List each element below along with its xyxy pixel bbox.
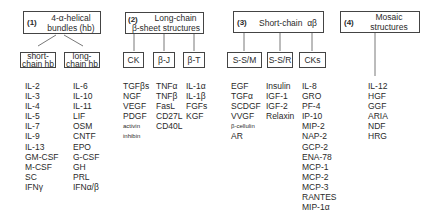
group-4-title-line2: structures <box>359 22 419 32</box>
group-1-title-line1: 4-α-helical <box>42 13 100 23</box>
member: IL-1β <box>186 91 207 101</box>
member: IL-8 <box>302 81 336 91</box>
member: IL-6 <box>73 81 99 91</box>
group-1-title: 4-α-helical bundles (hb) <box>42 13 100 33</box>
subgroup-beta-j: β-J <box>153 52 175 68</box>
subgroup-label-line2: chain hb <box>66 60 98 68</box>
group-1-box: (1) 4-α-helical bundles (hb) <box>23 11 101 34</box>
member: IL-4 <box>25 101 59 111</box>
member: β-cellulin <box>231 121 261 131</box>
member: Insulin <box>266 81 294 91</box>
group-4-title: Mosaic structures <box>359 12 419 32</box>
group-1-title-line2: bundles (hb) <box>42 23 100 33</box>
member: VVGF <box>231 111 261 121</box>
member: IGF-2 <box>266 101 294 111</box>
group-4-box: (4) Mosaic structures <box>340 11 420 33</box>
member: IFNα/β <box>73 182 99 192</box>
member: PF-4 <box>302 101 336 111</box>
member: G-CSF <box>73 152 99 162</box>
member: IL-1α <box>186 81 207 91</box>
member: NAP-2 <box>302 131 336 141</box>
member: SC <box>25 172 59 182</box>
group-2-title-line1: Long-chain <box>148 13 203 23</box>
subgroup-short-chain-hb: short- chain hb <box>20 52 56 68</box>
member: TGFα <box>231 91 261 101</box>
member: TNFβ <box>156 91 182 101</box>
subgroup-s-s-r: S-S/R <box>267 52 293 68</box>
member: FGFs <box>186 101 207 111</box>
member: VEGF <box>123 101 149 111</box>
group-1-number: (1) <box>27 18 37 28</box>
member: IL-9 <box>25 131 59 141</box>
member: CNTF <box>73 131 99 141</box>
beta-j-members: TNFα TNFβ FasL CD27L CD40L <box>156 81 182 131</box>
member: CD40L <box>156 121 182 131</box>
subgroup-long-chain-hb: long- chain hb <box>64 52 100 68</box>
group-3-number: (3) <box>237 18 247 28</box>
member: IP-10 <box>302 111 336 121</box>
member: PDGF <box>123 111 149 121</box>
member: IGF-1 <box>266 91 294 101</box>
member: RANTES <box>302 192 336 202</box>
member: EGF <box>231 81 261 91</box>
member: MCP-1 <box>302 162 336 172</box>
subgroup-ck: CK <box>123 52 144 68</box>
member: activin <box>123 121 149 131</box>
member: IL-7 <box>25 121 59 131</box>
s-s-r-members: Insulin IGF-1 IGF-2 Relaxin <box>266 81 294 121</box>
member: Relaxin <box>266 111 294 121</box>
member: IL-2 <box>25 81 59 91</box>
member: M-CSF <box>25 162 59 172</box>
member: TNFα <box>156 81 182 91</box>
member: HRG <box>368 131 388 141</box>
group-2-title-line2: β-sheet structures <box>128 23 204 33</box>
mosaic-members: IL-12 HGF GGF ARIA NDF HRG <box>368 81 388 142</box>
member: GRO <box>302 91 336 101</box>
member: NDF <box>368 121 388 131</box>
group-4-number: (4) <box>344 18 354 28</box>
member: IL-5 <box>25 111 59 121</box>
member: HGF <box>368 91 388 101</box>
member: ENA-78 <box>302 152 336 162</box>
member: LIF <box>73 111 99 121</box>
s-s-m-members: EGF TGFα SCDGF VVGF β-cellulin AR <box>231 81 261 142</box>
member: GH <box>73 162 99 172</box>
member: inhibin <box>123 131 149 141</box>
member: PRL <box>73 172 99 182</box>
member: GM-CSF <box>25 152 59 162</box>
subgroup-beta-t: β-T <box>183 52 205 68</box>
subgroup-cks: CKs <box>299 52 326 68</box>
member: EPO <box>73 142 99 152</box>
group-4-title-line1: Mosaic <box>359 12 419 22</box>
subgroup-label-line2: chain hb <box>22 60 54 68</box>
cks-members: IL-8 GRO PF-4 IP-10 MIP-2 NAP-2 GCP-2 EN… <box>302 81 336 212</box>
subgroup-s-s-m: S-S/M <box>227 52 262 68</box>
member: TGFβs <box>123 81 149 91</box>
short-chain-hb-members: IL-2 IL-3 IL-4 IL-5 IL-7 IL-9 IL-13 GM-C… <box>25 81 59 192</box>
member: MIP-1α <box>302 202 336 212</box>
member: SCDGF <box>231 101 261 111</box>
group-2-box: (2) Long-chain β-sheet structures <box>125 12 204 34</box>
member: MCP-2 <box>302 172 336 182</box>
member: ARIA <box>368 111 388 121</box>
group-3-title: Short-chain αβ <box>254 18 322 28</box>
member: AR <box>231 131 261 141</box>
long-chain-hb-members: IL-6 IL-10 IL-11 LIF OSM CNTF EPO G-CSF … <box>73 81 99 192</box>
member: KGF <box>186 111 207 121</box>
member: OSM <box>73 121 99 131</box>
group-3-box: (3) Short-chain αβ <box>233 11 324 33</box>
member: IL-13 <box>25 142 59 152</box>
ck-members: TGFβs NGF VEGF PDGF activin inhibin <box>123 81 149 142</box>
member: MCP-3 <box>302 182 336 192</box>
member: GGF <box>368 101 388 111</box>
member: MIP-2 <box>302 121 336 131</box>
member: IFNγ <box>25 182 59 192</box>
member: IL-11 <box>73 101 99 111</box>
member: FasL <box>156 101 182 111</box>
member: IL-3 <box>25 91 59 101</box>
beta-t-members: IL-1α IL-1β FGFs KGF <box>186 81 207 121</box>
member: CD27L <box>156 111 182 121</box>
member: GCP-2 <box>302 142 336 152</box>
member: NGF <box>123 91 149 101</box>
member: IL-12 <box>368 81 388 91</box>
